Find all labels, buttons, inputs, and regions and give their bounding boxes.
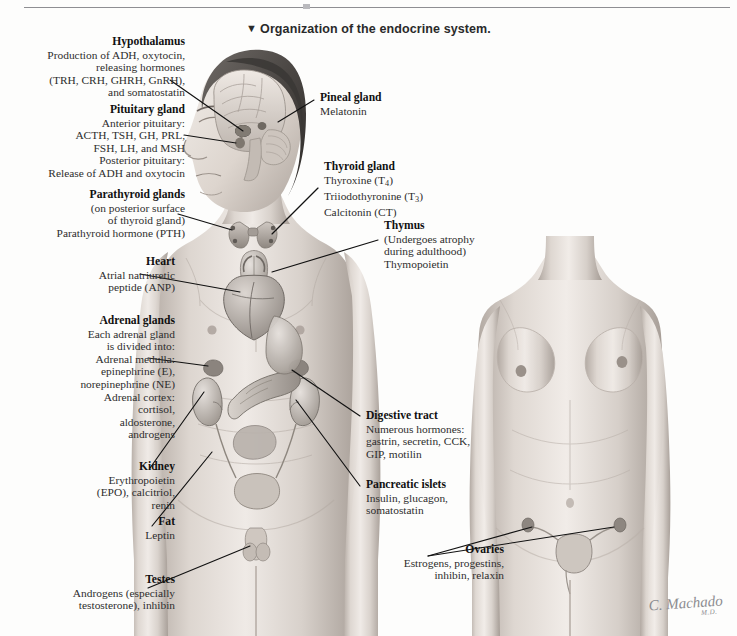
label-pituitary-gland-line-4: Release of ADH and oxytocin [10,167,185,180]
label-ovaries-line-0: Estrogens, progestins, [352,557,504,570]
label-adrenal-glands-line-5: Adrenal cortex: [6,391,175,404]
cerebellum [260,130,290,165]
label-hypothalamus-title: Hypothalamus [10,36,185,49]
female-nipple-left [516,365,527,377]
label-pituitary-gland-line-1: ACTH, TSH, GH, PRL, [10,129,185,142]
label-heart-line-0: Atrial natriuretic [10,269,175,282]
ovary-left [522,518,534,532]
label-testes-line-0: Androgens (especially [10,587,175,600]
label-digestive-tract-line-0: Numerous hormones: [366,423,546,436]
pituitary-stalk [241,136,242,139]
label-digestive-tract-title: Digestive tract [366,410,546,423]
label-testes-title: Testes [10,574,175,587]
label-fat-title: Fat [10,516,175,529]
female-navel [566,498,574,508]
label-hypothalamus-line-3: and somatostatin [10,86,185,99]
label-heart-line-1: peptide (ANP) [10,281,175,294]
label-thymus-line-0: (Undergoes atrophy [384,233,559,246]
label-pituitary-gland-line-3: Posterior pituitary: [10,154,185,167]
uterus-organ [556,534,592,573]
urinary-bladder [234,474,279,510]
label-digestive-tract-line-1: gastrin, secretin, CCK, [366,435,546,448]
label-adrenal-glands-title: Adrenal glands [6,315,175,328]
label-hypothalamus-line-0: Production of ADH, oxytocin, [10,49,185,62]
label-digestive-tract-line-2: GIP, motilin [366,448,546,461]
label-pancreatic-islets-title: Pancreatic islets [366,479,546,492]
label-hypothalamus-line-2: (TRH, CRH, GHRH, GnRH), [10,74,185,87]
label-adrenal-glands-line-0: Each adrenal gland [6,328,175,341]
parathyroid-upper-right [271,226,275,230]
label-parathyroid-glands-title: Parathyroid glands [10,189,185,202]
thyroid-isthmus [248,228,258,236]
label-pituitary-gland: Pituitary gland Anterior pituitary: ACTH… [10,104,185,180]
label-pancreatic-islets-line-1: somatostatin [366,504,546,517]
label-adrenal-glands-line-8: androgens [6,428,175,441]
female-nipple-right [617,356,628,368]
label-pineal-gland: Pineal gland Melatonin [320,92,490,117]
label-adrenal-glands-line-1: is divided into: [6,340,175,353]
label-kidney-line-0: Erythropoietin [10,474,175,487]
label-digestive-tract: Digestive tract Numerous hormones: gastr… [366,410,546,460]
label-pancreatic-islets: Pancreatic islets Insulin, glucagon, som… [366,479,546,517]
label-pineal-gland-line-0: Melatonin [320,105,490,118]
figure-page: ▼Organization of the endocrine system. [0,0,737,636]
label-adrenal-glands-line-3: epinephrine (E), [6,365,175,378]
label-parathyroid-glands-line-0: (on posterior surface [10,202,185,215]
label-adrenal-glands-line-7: aldosterone, [6,416,175,429]
label-parathyroid-glands-line-1: of thyroid gland) [10,214,185,227]
label-testes: Testes Androgens (especially testosteron… [10,574,175,612]
label-kidney-line-2: renin [10,499,175,512]
ovary-right [614,518,626,532]
label-adrenal-glands-line-2: Adrenal medulla: [6,353,175,366]
label-thymus-title: Thymus [384,220,559,233]
label-heart-title: Heart [10,256,175,269]
label-kidney-title: Kidney [10,461,175,474]
label-hypothalamus: Hypothalamus Production of ADH, oxytocin… [10,36,185,99]
label-parathyroid-glands: Parathyroid glands (on posterior surface… [10,189,185,239]
label-kidney-line-1: (EPO), calcitriol, [10,486,175,499]
label-parathyroid-glands-line-2: Parathyroid hormone (PTH) [10,227,185,240]
label-thymus-line-2: Thymopoietin [384,258,559,271]
male-nipple-left [207,325,216,334]
label-kidney: Kidney Erythropoietin (EPO), calcitriol,… [10,461,175,511]
label-thyroid-gland-line-1: Triiodothyronine (T3) [324,190,499,206]
label-thyroid-gland: Thyroid gland Thyroxine (T4) Triiodothyr… [324,161,499,219]
label-adrenal-glands-line-6: cortisol, [6,403,175,416]
label-adrenal-glands-line-4: norepinephrine (NE) [6,378,175,391]
label-fat: Fat Leptin [10,516,175,541]
label-thyroid-gland-line-2: Calcitonin (CT) [324,206,499,219]
label-pancreatic-islets-line-0: Insulin, glucagon, [366,492,546,505]
label-pituitary-gland-line-0: Anterior pituitary: [10,117,185,130]
label-fat-line-0: Leptin [10,529,175,542]
label-thymus: Thymus (Undergoes atrophy during adultho… [384,220,559,270]
label-adrenal-glands: Adrenal glands Each adrenal gland is div… [6,315,175,441]
adrenal-left [204,360,223,376]
label-heart: Heart Atrial natriuretic peptide (ANP) [10,256,175,294]
label-testes-line-1: testosterone), inhibin [10,599,175,612]
label-thyroid-gland-line-0: Thyroxine (T4) [324,174,499,190]
testes-organ [243,528,270,561]
pineal-organ [258,122,267,130]
label-ovaries-title: Ovaries [352,544,504,557]
label-ovaries-line-1: inhibin, relaxin [352,569,504,582]
label-thyroid-gland-title: Thyroid gland [324,161,499,174]
label-pineal-gland-title: Pineal gland [320,92,490,105]
parathyroid-lower-right [269,239,273,243]
intestine-organ [233,426,276,460]
label-hypothalamus-line-1: releasing hormones [10,61,185,74]
label-pituitary-gland-title: Pituitary gland [10,104,185,117]
parathyroid-lower-left [233,239,237,243]
label-ovaries: Ovaries Estrogens, progestins, inhibin, … [352,544,504,582]
label-thymus-line-1: during adulthood) [384,245,559,258]
label-pituitary-gland-line-2: FSH, LH, and MSH [10,142,185,155]
